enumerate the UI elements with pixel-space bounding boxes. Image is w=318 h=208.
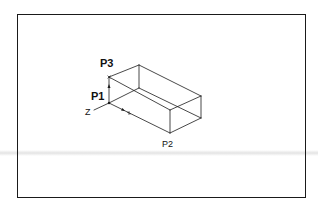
edge-bottom-front — [109, 103, 170, 133]
edge-top-back — [139, 65, 201, 96]
edge-top-front — [109, 77, 170, 110]
label-z-axis: Z — [85, 108, 91, 117]
box-wireframe — [0, 0, 318, 208]
label-p2: P2 — [162, 140, 173, 149]
label-p3: P3 — [100, 58, 113, 69]
edge-bottom-right — [170, 118, 201, 133]
origin-point-icon — [108, 102, 110, 104]
y-axis-arrow-icon — [108, 84, 111, 88]
edge-top-right — [170, 96, 201, 110]
edge-top-left — [109, 65, 139, 77]
z-axis-line — [94, 103, 109, 110]
label-p1: P1 — [91, 91, 104, 102]
edge-back-bottom-left — [109, 88, 139, 103]
